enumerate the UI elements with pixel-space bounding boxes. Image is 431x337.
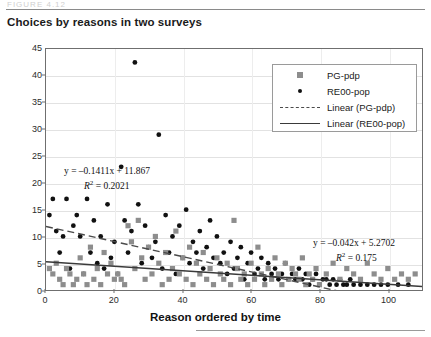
data-point [379, 282, 384, 287]
trendline-equation-2: y = –0.042x + 5.2702 [313, 238, 395, 248]
data-point [249, 250, 254, 255]
data-point [187, 261, 192, 266]
y-axis-tick-marks [0, 48, 46, 291]
data-point [290, 266, 295, 271]
solid-line-icon [273, 123, 327, 124]
data-point [307, 271, 312, 276]
x-tick-mark [45, 289, 46, 293]
data-point [173, 229, 178, 234]
x-tick-label: 60 [246, 295, 256, 305]
data-point [266, 266, 271, 271]
data-point [160, 282, 165, 287]
data-point [190, 282, 195, 287]
data-point [81, 271, 86, 276]
data-point [293, 271, 298, 276]
figure-title: Choices by reasons in two surveys [7, 16, 202, 28]
data-point [125, 223, 130, 228]
x-tick-mark [182, 289, 183, 293]
legend-item-pg-pdp: PG-pdp [273, 67, 416, 83]
legend-label: Linear (RE00-pop) [327, 118, 405, 129]
data-point [252, 277, 257, 282]
trendline-equation-1: y = –0.1411x + 11.867 [64, 166, 150, 176]
data-point [269, 277, 274, 282]
x-tick-label: 100 [381, 295, 396, 305]
x-tick-mark [251, 289, 252, 293]
data-point [139, 261, 144, 266]
data-point [166, 277, 171, 282]
data-point [262, 277, 267, 282]
data-point [406, 277, 411, 282]
data-point [71, 223, 76, 228]
data-point [64, 266, 69, 271]
data-point [344, 266, 349, 271]
data-point [300, 255, 305, 260]
data-point [262, 282, 267, 287]
legend-item-linear-pg-pdp: Linear (PG-pdp) [273, 99, 416, 115]
data-point [112, 277, 117, 282]
data-point [184, 277, 189, 282]
data-point [85, 197, 90, 202]
footer-divider [196, 330, 425, 331]
data-point [221, 277, 226, 282]
data-point [208, 218, 213, 223]
data-point [225, 261, 230, 266]
data-point [279, 282, 284, 287]
data-point [136, 218, 141, 223]
data-point [132, 266, 137, 271]
data-point [136, 202, 141, 207]
data-point [71, 282, 76, 287]
data-point [385, 266, 390, 271]
data-point [170, 234, 175, 239]
data-point [47, 213, 52, 218]
data-point [98, 282, 103, 287]
data-point [84, 282, 89, 287]
data-point [314, 272, 319, 277]
data-point [215, 234, 220, 239]
data-point [149, 271, 154, 276]
data-point [351, 271, 356, 276]
data-point [272, 255, 277, 260]
data-point [150, 255, 155, 260]
data-point [249, 261, 254, 266]
data-point [184, 207, 189, 212]
data-point [50, 271, 55, 276]
data-point [156, 261, 161, 266]
data-point [201, 250, 206, 255]
data-point [102, 266, 107, 271]
x-tick-label: 40 [177, 295, 187, 305]
data-point [91, 218, 96, 223]
data-point [194, 250, 199, 255]
data-point [91, 277, 96, 282]
data-point [344, 282, 349, 287]
data-point [177, 223, 182, 228]
data-point [348, 277, 353, 282]
data-point [378, 277, 383, 282]
legend-label: RE00-pop [327, 86, 370, 97]
x-tick-label: 80 [315, 295, 325, 305]
data-point [50, 197, 55, 202]
data-point [187, 245, 192, 250]
data-point [283, 261, 288, 266]
data-point [221, 250, 226, 255]
data-point [67, 271, 72, 276]
data-point [78, 255, 83, 260]
data-point [57, 250, 62, 255]
header-divider [6, 9, 425, 10]
data-point [197, 229, 202, 234]
data-point [61, 282, 66, 287]
data-point [122, 218, 127, 223]
data-point [238, 277, 243, 282]
data-point [132, 60, 137, 65]
data-point [139, 255, 144, 260]
data-point [269, 272, 274, 277]
data-point [194, 261, 199, 266]
data-point [61, 234, 66, 239]
dot-marker-icon [273, 89, 327, 93]
data-point [324, 271, 329, 276]
data-point [122, 282, 127, 287]
data-point [153, 239, 158, 244]
data-point [102, 250, 107, 255]
data-point [358, 277, 363, 282]
data-point [256, 266, 261, 271]
data-point [177, 271, 182, 276]
